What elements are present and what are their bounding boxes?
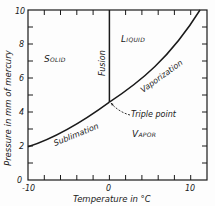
vaporization-label: Vaporization xyxy=(139,58,185,95)
plot-frame xyxy=(28,10,207,180)
region-solid-label: Solid xyxy=(44,54,66,64)
y-tick-label: 6 xyxy=(19,74,24,83)
region-liquid-label: Liquid xyxy=(121,34,145,44)
y-axis-title: Pressure in mm of mercury xyxy=(3,49,13,166)
x-axis-ticks xyxy=(44,10,190,180)
fusion-label: Fusion xyxy=(98,50,107,76)
x-tick-label: -10 xyxy=(22,184,35,193)
phase-diagram-chart: Solid Liquid Vapor Fusion Vaporization S… xyxy=(0,0,215,206)
triple-point-leader xyxy=(111,103,130,115)
x-axis-title: Temperature in °C xyxy=(73,194,151,204)
x-tick-label: 10 xyxy=(185,184,195,193)
vaporization-curve xyxy=(109,10,200,102)
x-tick-label: 0 xyxy=(106,184,111,193)
y-tick-label: 10 xyxy=(15,7,25,16)
region-vapor-label: Vapor xyxy=(132,129,156,139)
triple-point-label: Triple point xyxy=(131,110,177,119)
sublimation-label: Sublimation xyxy=(52,122,100,148)
y-tick-label: 4 xyxy=(19,108,24,117)
y-tick-label: 8 xyxy=(19,40,24,49)
y-tick-label: 2 xyxy=(19,142,24,151)
